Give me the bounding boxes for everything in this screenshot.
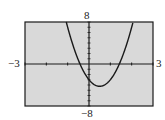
xmin-label: −3 — [8, 58, 20, 69]
ymax-label: 8 — [84, 10, 90, 21]
xmax-label: 3 — [156, 58, 162, 69]
graph-window — [0, 0, 165, 120]
ymin-label: −8 — [81, 108, 93, 119]
